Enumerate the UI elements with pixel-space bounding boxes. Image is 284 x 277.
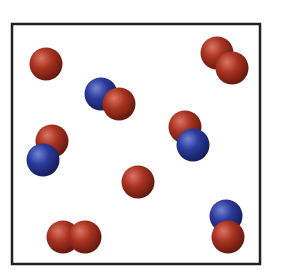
single-atom: [30, 48, 63, 81]
single-atom: [122, 166, 155, 199]
red-atom-icon: [69, 221, 102, 254]
red-atom-icon: [216, 52, 249, 85]
diatomic-molecule: [210, 200, 245, 254]
red-atom-icon: [30, 48, 63, 81]
diatomic-molecule: [27, 125, 69, 177]
diagram-canvas: [0, 0, 284, 277]
particles-group: [27, 37, 249, 254]
blue-atom-icon: [177, 129, 210, 162]
red-atom-icon: [122, 166, 155, 199]
red-atom-icon: [212, 221, 245, 254]
diatomic-molecule: [85, 78, 136, 121]
diatomic-molecule: [169, 111, 210, 162]
red-atom-icon: [103, 88, 136, 121]
particle-diagram: Gas particles in a container: [0, 0, 284, 277]
diatomic-molecule: [47, 221, 102, 254]
blue-atom-icon: [27, 144, 60, 177]
diatomic-molecule: [201, 37, 249, 85]
